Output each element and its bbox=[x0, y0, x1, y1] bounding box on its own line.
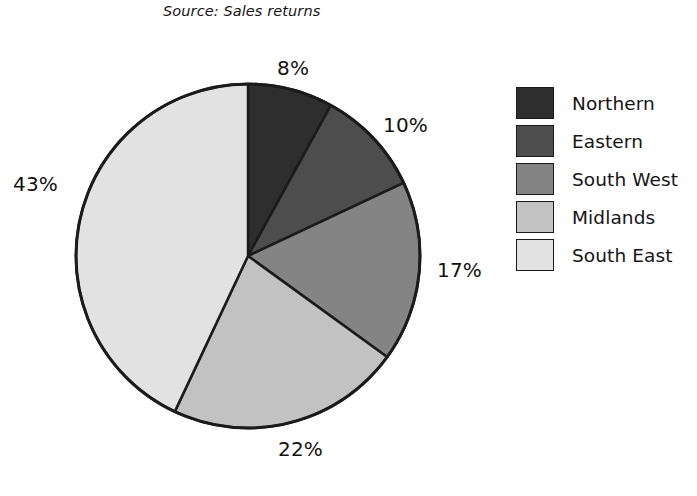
legend-swatch-icon bbox=[516, 125, 554, 157]
pie-chart-area: 8% 10% 17% 22% 43% bbox=[0, 0, 500, 496]
data-label-eastern: 10% bbox=[383, 113, 428, 137]
legend-item-label: Northern bbox=[572, 93, 655, 114]
pie-chart-svg bbox=[0, 0, 500, 496]
legend-swatch-icon bbox=[516, 201, 554, 233]
legend-item-south-east[interactable]: South East bbox=[516, 236, 694, 274]
pie-chart-figure: Source: Sales returns 8% 10% 17% 22% 43%… bbox=[0, 0, 697, 496]
data-label-south-west: 17% bbox=[437, 258, 482, 282]
legend-swatch-icon bbox=[516, 239, 554, 271]
legend-swatch-icon bbox=[516, 163, 554, 195]
legend-item-label: South West bbox=[572, 169, 678, 190]
legend-item-label: Eastern bbox=[572, 131, 643, 152]
legend-item-south-west[interactable]: South West bbox=[516, 160, 694, 198]
chart-legend: NorthernEasternSouth WestMidlandsSouth E… bbox=[516, 84, 694, 274]
legend-item-midlands[interactable]: Midlands bbox=[516, 198, 694, 236]
legend-item-northern[interactable]: Northern bbox=[516, 84, 694, 122]
legend-item-label: Midlands bbox=[572, 207, 655, 228]
pie-slice-group bbox=[76, 84, 420, 428]
legend-item-label: South East bbox=[572, 245, 673, 266]
legend-item-eastern[interactable]: Eastern bbox=[516, 122, 694, 160]
data-label-northern: 8% bbox=[277, 56, 309, 80]
legend-swatch-icon bbox=[516, 87, 554, 119]
data-label-south-east: 43% bbox=[13, 172, 58, 196]
data-label-midlands: 22% bbox=[278, 437, 323, 461]
